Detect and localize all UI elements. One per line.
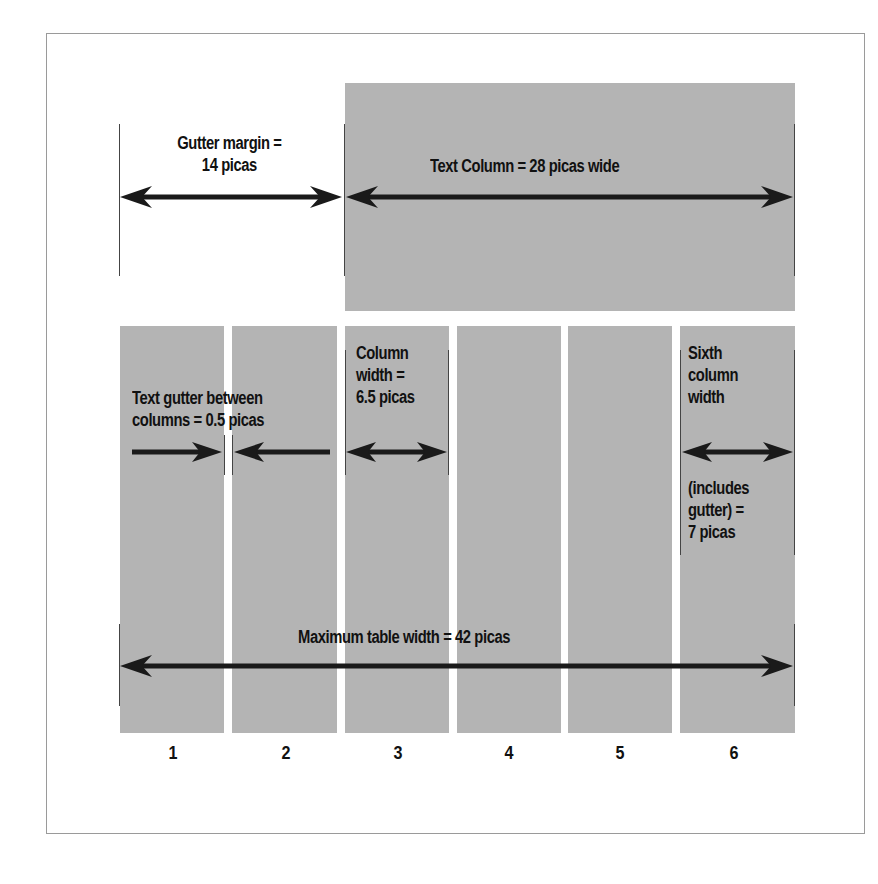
gutter-margin-arrow-icon	[120, 186, 342, 208]
gutter-margin-label: Gutter margin = 14 picas	[149, 132, 310, 176]
max-table-arrow-icon	[120, 655, 793, 677]
column-number-4: 4	[492, 742, 526, 764]
column-width-line3: 6.5 picas	[356, 386, 415, 408]
text-gutter-line2: columns = 0.5 picas	[132, 409, 264, 431]
sixth-column-label-top: Sixth column width	[688, 342, 738, 408]
sixth-line1: Sixth	[688, 342, 738, 364]
column-number-5: 5	[603, 742, 637, 764]
sixth-column-label-bottom: (includes gutter) = 7 picas	[688, 477, 749, 543]
gutter-margin-line1: Gutter margin =	[149, 132, 310, 154]
column-width-line2: width =	[356, 364, 415, 386]
text-gutter-line1: Text gutter between	[132, 387, 264, 409]
column-number-6: 6	[717, 742, 751, 764]
sixth-line2: column	[688, 364, 738, 386]
sixth-line3: width	[688, 386, 738, 408]
gutter-right-arrow-icon	[132, 442, 222, 462]
sixth-line6: 7 picas	[688, 521, 749, 543]
gutter-left-arrow-icon	[234, 442, 330, 462]
sixth-line4: (includes	[688, 477, 749, 499]
text-column-arrow-icon	[346, 186, 793, 208]
column-number-3: 3	[381, 742, 415, 764]
column-width-label: Column width = 6.5 picas	[356, 342, 415, 408]
gutter-margin-line2: 14 picas	[149, 154, 310, 176]
sixth-line5: gutter) =	[688, 499, 749, 521]
sixth-column-arrow-icon	[682, 442, 793, 462]
column-width-arrow-icon	[346, 442, 447, 462]
text-gutter-label: Text gutter between columns = 0.5 picas	[132, 387, 264, 431]
max-table-label: Maximum table width = 42 picas	[298, 626, 510, 648]
column-width-line1: Column	[356, 342, 415, 364]
column-number-1: 1	[156, 742, 190, 764]
text-column-label: Text Column = 28 picas wide	[430, 155, 619, 177]
column-number-2: 2	[269, 742, 303, 764]
